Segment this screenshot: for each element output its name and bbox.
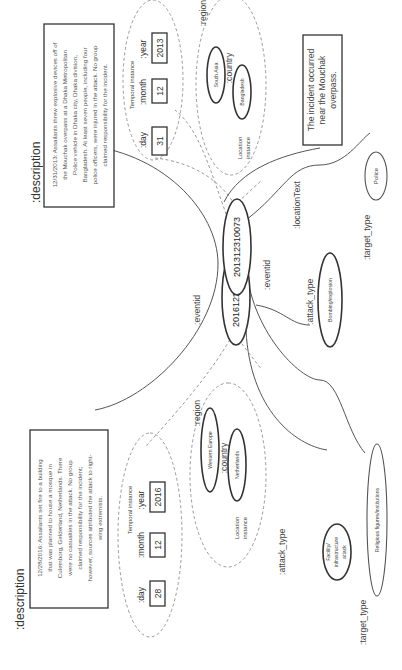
temporal-instance: Temporal instance :day 31 :month 12 :yea… bbox=[123, 0, 183, 160]
attack-type-value: infrastructure bbox=[333, 537, 339, 567]
description-line: were no casualties in the attack. No gro… bbox=[66, 460, 73, 577]
edge-2013-temporal-link bbox=[175, 110, 230, 225]
attack-type-value: Bombing/explosion bbox=[327, 278, 333, 322]
location-instance-title: instance bbox=[242, 516, 248, 539]
attack-type-label: :attack_type bbox=[305, 278, 315, 325]
description-label: :description bbox=[29, 142, 43, 203]
temporal-instance-title: Temporal instance bbox=[127, 485, 133, 534]
description-text: 12/28/2016: Assailants set fire to a bui… bbox=[36, 455, 103, 582]
month-value: 12 bbox=[155, 86, 165, 96]
day-label: :day bbox=[138, 131, 148, 148]
eventid-label: :eventid bbox=[192, 295, 202, 325]
knowledge-graph-diagram: :description 12/28/2016: Assailants set … bbox=[0, 0, 402, 670]
rotated-diagram-layer: :description 12/28/2016: Assailants set … bbox=[13, 0, 387, 645]
attack-type-label: :attack_type bbox=[277, 528, 287, 575]
target-type-label: :target_type bbox=[362, 214, 372, 260]
day-value: 28 bbox=[153, 589, 163, 599]
location-instance-title: instance bbox=[245, 136, 251, 159]
description-label: :description bbox=[13, 569, 27, 630]
description-line: 12/31/2013: Assailants threw explosive d… bbox=[51, 42, 58, 187]
month-value: 12 bbox=[153, 540, 163, 550]
country-value: Bangladesh bbox=[239, 78, 245, 106]
description-line: 12/28/2016: Assailants set fire to a bui… bbox=[36, 459, 43, 577]
region-value: Western Europe bbox=[207, 431, 213, 469]
day-label: :day bbox=[136, 586, 146, 603]
month-label: :month bbox=[138, 79, 148, 105]
region-value: South Asia bbox=[213, 62, 219, 87]
diagram-canvas: :description 12/28/2016: Assailants set … bbox=[0, 0, 402, 670]
location-text-line: The incident occurred bbox=[306, 48, 316, 131]
eventid-label: :eventid bbox=[262, 260, 272, 290]
location-instance-title: Location bbox=[234, 517, 240, 540]
description-line: Police vehicle in Dhaka city, Dhaka divi… bbox=[71, 55, 78, 175]
country-value: Netherlands bbox=[234, 451, 240, 479]
edge-2013-location bbox=[238, 180, 262, 202]
year-value: 2016 bbox=[153, 487, 163, 506]
location-instance: Location instance :region Western Europe… bbox=[190, 383, 266, 567]
location-instance-title: Location bbox=[237, 137, 243, 160]
eventid-value: 201312310073 bbox=[232, 217, 242, 277]
description-line: claimed responsibility for the incident; bbox=[76, 466, 83, 569]
description-line: Bangladesh. At least seven people, inclu… bbox=[81, 47, 88, 182]
country-label: :country bbox=[224, 52, 234, 83]
temporal-instance-title: Temporal instance bbox=[129, 60, 135, 109]
attack-type-value: attack bbox=[341, 545, 347, 559]
day-value: 31 bbox=[155, 136, 165, 146]
description-line: Culemborg, Gelderland, Netherlands. Ther… bbox=[56, 457, 63, 578]
edge-2013-target-type bbox=[246, 133, 370, 220]
event-201312310073: :description 12/31/2013: Assailants thre… bbox=[29, 0, 387, 347]
description-line: police officers, were injured in the att… bbox=[91, 45, 98, 184]
region-label: :region bbox=[192, 400, 202, 426]
target-type-value: Police bbox=[373, 167, 379, 184]
location-text-line: near the Mouchak bbox=[317, 55, 327, 124]
description-line: however, sources attributed the attack t… bbox=[86, 455, 93, 582]
description-line: the Mouchak overpass at a Dhaka Metropol… bbox=[61, 50, 68, 180]
target-type-label: :target_type bbox=[358, 599, 368, 645]
location-text-label: :locationText bbox=[292, 181, 302, 229]
year-label: :year bbox=[138, 39, 148, 58]
month-label: :month bbox=[136, 532, 146, 558]
description-line: that was planned to house a mosque in bbox=[46, 464, 53, 572]
attack-type-value: Facility/ bbox=[325, 543, 331, 561]
region-label: :region bbox=[198, 0, 208, 26]
description-line: claimed responsibility for the incident. bbox=[101, 63, 108, 166]
year-value: 2013 bbox=[155, 38, 165, 57]
edge-2016-attack-type bbox=[246, 330, 327, 450]
edge-2016-temporal bbox=[145, 330, 235, 447]
temporal-instance: Temporal instance :day 28 :month 12 :yea… bbox=[118, 433, 182, 637]
target-type-value: Religious figures/institutions bbox=[374, 487, 380, 552]
edge-2013-attack-type bbox=[256, 305, 310, 325]
year-label: :year bbox=[136, 490, 146, 509]
location-text-line: overpass. bbox=[328, 71, 338, 108]
description-line: wing extremists. bbox=[96, 496, 103, 542]
edge-2016-description bbox=[95, 264, 218, 410]
location-instance: Location instance :region South Asia :co… bbox=[196, 0, 266, 175]
